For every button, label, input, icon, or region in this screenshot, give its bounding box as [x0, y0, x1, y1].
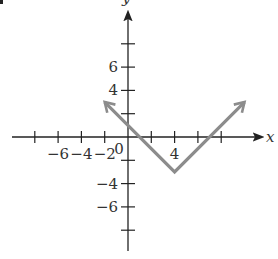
x-tick-label: −4: [70, 145, 92, 163]
x-axis-label: x: [266, 128, 275, 146]
x-tick-label: 4: [170, 145, 180, 163]
x-tick-label: −6: [47, 145, 69, 163]
x-tick-label: −2: [94, 145, 116, 163]
corner-mark: [0, 0, 3, 4]
y-tick-label: 6: [108, 58, 118, 76]
coordinate-plane: xy−6−4−2464−4−60: [0, 0, 278, 259]
y-axis-label: y: [121, 0, 131, 7]
y-tick-label: −6: [96, 198, 118, 216]
origin-label: 0: [114, 140, 124, 158]
y-tick-label: −4: [96, 175, 118, 193]
y-tick-label: 4: [108, 81, 118, 99]
axes: [12, 12, 262, 251]
